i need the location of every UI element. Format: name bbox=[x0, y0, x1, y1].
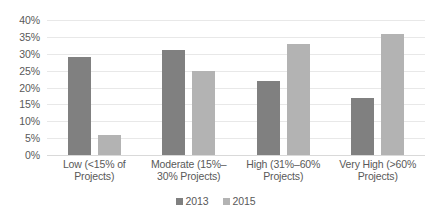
bar-pair bbox=[331, 20, 426, 155]
y-axis-tick-label: 5% bbox=[25, 133, 40, 143]
x-axis-category-label: Low (<15% of Projects) bbox=[47, 158, 142, 190]
bar-2015[interactable] bbox=[287, 44, 310, 155]
x-axis: Low (<15% of Projects)Moderate (15%–30% … bbox=[47, 158, 425, 190]
bar-pair bbox=[236, 20, 331, 155]
x-axis-category-label: Very High (>60% Projects) bbox=[331, 158, 426, 190]
bar-2013[interactable] bbox=[162, 50, 185, 155]
bar-pair bbox=[47, 20, 142, 155]
bar-group bbox=[142, 20, 237, 155]
bar-2013[interactable] bbox=[68, 57, 91, 155]
y-axis: 40%35%30%25%20%15%10%5%0% bbox=[0, 0, 45, 217]
bar-2015[interactable] bbox=[192, 71, 215, 155]
bar-group bbox=[47, 20, 142, 155]
y-axis-tick-label: 0% bbox=[25, 150, 40, 160]
y-axis-tick-label: 15% bbox=[19, 99, 40, 109]
bar-pair bbox=[142, 20, 237, 155]
bar-2013[interactable] bbox=[351, 98, 374, 155]
axis-baseline bbox=[47, 155, 425, 156]
y-axis-tick-label: 40% bbox=[19, 15, 40, 25]
bar-group bbox=[236, 20, 331, 155]
x-axis-category-label: Moderate (15%–30% Projects) bbox=[142, 158, 237, 190]
bar-group bbox=[331, 20, 426, 155]
legend: 20132015 bbox=[0, 196, 431, 207]
legend-item-2013[interactable]: 2013 bbox=[176, 196, 209, 207]
y-axis-tick-label: 30% bbox=[19, 49, 40, 59]
legend-swatch-icon bbox=[223, 198, 230, 205]
legend-label: 2015 bbox=[233, 196, 256, 207]
y-axis-tick-label: 10% bbox=[19, 116, 40, 126]
bar-2015[interactable] bbox=[381, 34, 404, 156]
y-axis-tick-label: 35% bbox=[19, 32, 40, 42]
x-axis-category-label: High (31%–60% Projects) bbox=[236, 158, 331, 190]
bar-groups bbox=[47, 20, 425, 155]
bar-2013[interactable] bbox=[257, 81, 280, 155]
y-axis-tick-label: 20% bbox=[19, 83, 40, 93]
legend-swatch-icon bbox=[176, 198, 183, 205]
y-axis-tick-label: 25% bbox=[19, 66, 40, 76]
bar-2015[interactable] bbox=[98, 135, 121, 155]
legend-label: 2013 bbox=[186, 196, 209, 207]
bar-chart: 40%35%30%25%20%15%10%5%0% Low (<15% of P… bbox=[0, 0, 431, 217]
legend-item-2015[interactable]: 2015 bbox=[223, 196, 256, 207]
